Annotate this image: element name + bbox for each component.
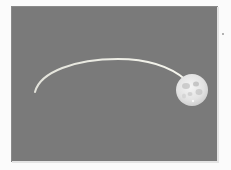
light-trail-arc: [35, 59, 186, 92]
full-moon: [176, 74, 208, 106]
moon-scene: [0, 0, 231, 170]
image-stage: [0, 0, 231, 170]
dust-speck: [222, 33, 224, 35]
